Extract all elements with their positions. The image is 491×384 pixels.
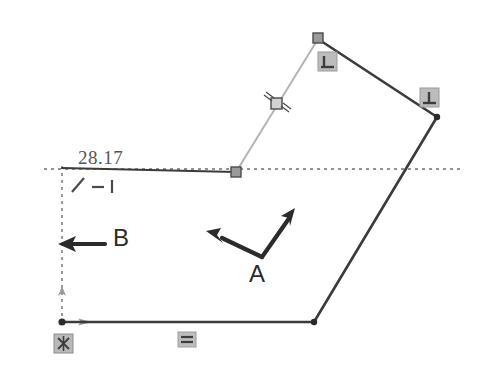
sketch-canvas[interactable]: 28.17 A B [0, 0, 491, 384]
slash-constraint-icon[interactable] [72, 178, 84, 192]
annotation-arrow-b [58, 236, 105, 252]
edge-apex-right[interactable] [318, 39, 437, 117]
annotation-arrow-a [206, 208, 295, 257]
perpendicular-constraint-icon-right[interactable] [420, 88, 439, 107]
edge-right-bottom[interactable] [314, 117, 437, 322]
vertex-right[interactable] [434, 114, 440, 120]
annotation-label-b: B [113, 226, 129, 250]
horizontal-constraint-icon[interactable] [178, 332, 196, 347]
fixed-anchor-constraint-icon[interactable] [54, 334, 73, 353]
vertex-handle-mid-top[interactable] [231, 167, 241, 177]
sketch-drawing[interactable] [0, 0, 491, 384]
perpendicular-constraint-icon-top[interactable] [318, 52, 337, 71]
midpoint-constraint-icon[interactable] [264, 92, 291, 112]
vertex-bottom-right[interactable] [311, 319, 317, 325]
vertex-handle-apex[interactable] [313, 33, 323, 43]
vertex-bottom-left[interactable] [58, 318, 65, 325]
dimension-value-label[interactable]: 28.17 [78, 148, 123, 167]
annotation-label-a: A [249, 262, 265, 286]
